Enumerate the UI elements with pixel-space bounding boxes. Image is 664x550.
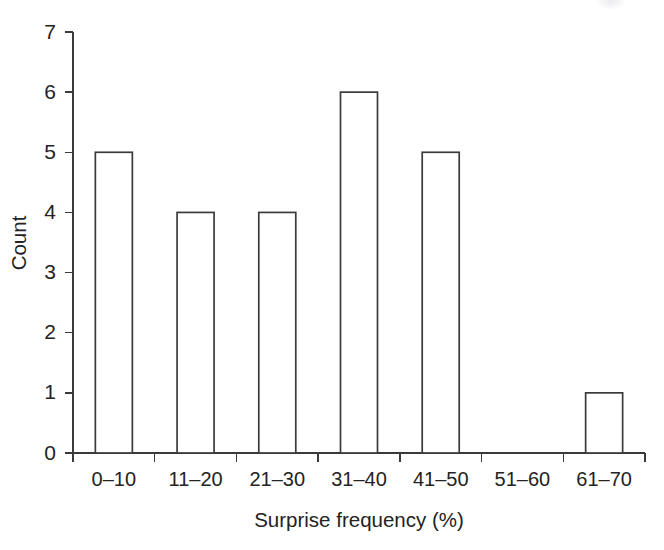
bar-11-20 bbox=[177, 212, 214, 453]
x-tick-label-3: 31–40 bbox=[331, 468, 387, 490]
x-axis-tick-labels: 0–1011–2021–3031–4041–5051–6061–70 bbox=[92, 468, 632, 490]
x-tick-label-4: 41–50 bbox=[413, 468, 469, 490]
bar-0-10 bbox=[95, 152, 132, 453]
y-tick-label-0: 0 bbox=[44, 441, 56, 464]
y-axis-tick-marks bbox=[65, 32, 73, 453]
y-tick-label-5: 5 bbox=[44, 140, 56, 163]
y-tick-label-1: 1 bbox=[44, 380, 56, 403]
bar-series bbox=[95, 92, 622, 453]
y-axis-tick-labels: 01234567 bbox=[44, 20, 56, 464]
x-tick-label-6: 61–70 bbox=[576, 468, 632, 490]
y-axis-title: Count bbox=[7, 215, 30, 270]
bar-41-50 bbox=[422, 152, 459, 453]
histogram-figure: 01234567 0–1011–2021–3031–4041–5051–6061… bbox=[0, 0, 664, 550]
y-tick-label-4: 4 bbox=[44, 200, 56, 223]
y-tick-label-2: 2 bbox=[44, 320, 56, 343]
chart-canvas: 01234567 0–1011–2021–3031–4041–5051–6061… bbox=[0, 0, 664, 550]
x-tick-label-0: 0–10 bbox=[92, 468, 137, 490]
x-tick-label-1: 11–20 bbox=[169, 468, 223, 490]
bar-61-70 bbox=[586, 393, 623, 453]
x-axis-title: Surprise frequency (%) bbox=[254, 508, 464, 531]
x-tick-label-5: 51–60 bbox=[495, 468, 551, 490]
x-axis-tick-marks bbox=[73, 453, 645, 462]
x-tick-label-2: 21–30 bbox=[249, 468, 305, 490]
bar-21-30 bbox=[259, 212, 296, 453]
y-tick-label-7: 7 bbox=[44, 20, 56, 43]
y-tick-label-3: 3 bbox=[44, 260, 56, 283]
y-tick-label-6: 6 bbox=[44, 80, 56, 103]
bar-31-40 bbox=[341, 92, 378, 453]
